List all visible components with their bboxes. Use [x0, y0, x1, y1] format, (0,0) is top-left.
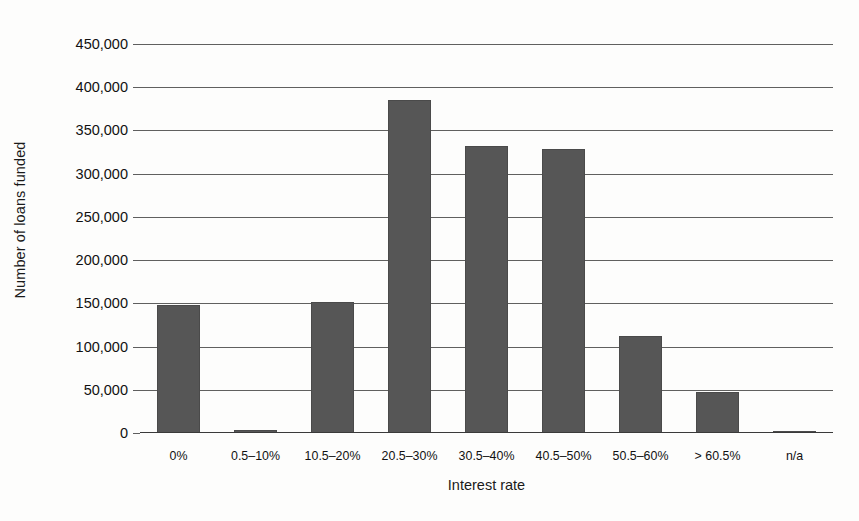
y-axis-tick-label: 450,000 [30, 36, 128, 52]
x-axis-tick-label: 0% [170, 447, 188, 465]
x-axis-tick-label: 30.5–40% [459, 447, 515, 465]
x-axis-tick-label: 40.5–50% [536, 447, 592, 465]
x-axis-tick-label: > 60.5% [695, 447, 741, 465]
bar-chart-figure: Number of loans funded 050,000100,000150… [0, 0, 859, 521]
y-axis-tick-labels: 050,000100,000150,000200,000250,000300,0… [30, 36, 128, 440]
y-axis-tick-mark [133, 303, 140, 304]
y-axis-tick-label: 0 [30, 425, 128, 441]
x-axis-tick-label: 50.5–60% [613, 447, 669, 465]
x-axis-tick-labels: 0%0.5–10%10.5–20%20.5–30%30.5–40%40.5–50… [140, 447, 833, 469]
y-axis-tick-mark [133, 130, 140, 131]
x-axis-tick-label: n/a [786, 447, 803, 465]
y-axis-tick-mark [133, 260, 140, 261]
y-axis-tick-label: 200,000 [30, 252, 128, 268]
bar [696, 392, 739, 433]
bar [542, 149, 585, 433]
y-axis-title-text: Number of loans funded [12, 142, 28, 299]
bar [465, 146, 508, 433]
y-axis-tick-mark [133, 44, 140, 45]
y-axis-tick-mark [133, 217, 140, 218]
bars-group [140, 44, 833, 433]
x-axis-tick-label: 10.5–20% [305, 447, 361, 465]
y-axis-tick-label: 350,000 [30, 122, 128, 138]
y-axis-tick-mark [133, 433, 140, 434]
bar [157, 305, 200, 433]
x-axis-title-text: Interest rate [448, 477, 525, 493]
y-axis-tick-mark [133, 87, 140, 88]
y-axis-tick-label: 50,000 [30, 382, 128, 398]
y-axis-tick-label: 250,000 [30, 209, 128, 225]
y-axis-tick-mark [133, 390, 140, 391]
bar [388, 100, 431, 433]
bar [619, 336, 662, 433]
y-axis-tick-label: 100,000 [30, 339, 128, 355]
x-axis-tick-label: 0.5–10% [231, 447, 280, 465]
plot-area [140, 44, 833, 433]
y-axis-tick-mark [133, 347, 140, 348]
y-axis-tick-label: 300,000 [30, 166, 128, 182]
bar [311, 302, 354, 433]
y-axis-tick-mark [133, 174, 140, 175]
x-axis-title: Interest rate [140, 477, 833, 493]
x-axis-line [140, 432, 833, 433]
y-axis-tick-label: 400,000 [30, 79, 128, 95]
x-axis-tick-label: 20.5–30% [382, 447, 438, 465]
y-axis-tick-label: 150,000 [30, 295, 128, 311]
